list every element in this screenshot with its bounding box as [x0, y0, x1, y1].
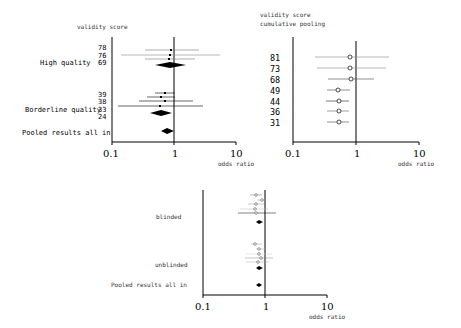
tick-10: 10: [413, 148, 426, 159]
tick-1: 1: [172, 148, 178, 159]
study-points: [159, 49, 172, 107]
score-49: 49: [270, 86, 280, 96]
group-high-quality: High quality: [40, 59, 91, 67]
score-81: 81: [270, 53, 280, 63]
score-24: 24: [98, 113, 106, 121]
score-31: 31: [270, 118, 280, 128]
tick-0.1: 0.1: [195, 301, 211, 312]
pooled-label: Pooled results all in: [111, 281, 187, 288]
group-borderline-quality: Borderline quality: [25, 106, 101, 114]
group-unblinded: unblinded: [155, 261, 188, 268]
cumulative-points: [336, 55, 353, 124]
tick-10: 10: [321, 301, 334, 312]
panel-validity-score: validity score 0.1 1 10 odds ratio 78 76…: [22, 23, 255, 167]
panel2-subtitle: cumulative pooling: [260, 20, 325, 28]
score-78: 78: [98, 44, 106, 52]
x-axis-label: odds ratio: [218, 160, 255, 167]
tick-10: 10: [230, 148, 243, 159]
score-73: 73: [270, 64, 280, 74]
tick-0.1: 0.1: [103, 148, 119, 159]
score-44: 44: [270, 97, 280, 107]
tick-1: 1: [263, 301, 269, 312]
tick-0.1: 0.1: [285, 148, 301, 159]
pooled-diamonds: [150, 62, 186, 134]
x-axis-label: odds ratio: [309, 313, 346, 320]
x-axis-label: odds ratio: [398, 160, 435, 167]
score-68: 68: [270, 75, 280, 85]
panel-blinding: 0.1 1 10 odds ratio blinded unblinded Po…: [111, 190, 346, 320]
panel-cumulative-pooling: validity score cumulative pooling 0.1 1 …: [260, 11, 435, 167]
panel2-title: validity score: [260, 11, 311, 19]
score-36: 36: [270, 107, 280, 117]
pooled-label: Pooled results all in: [22, 129, 111, 137]
panel1-title: validity score: [77, 23, 128, 31]
figure: validity score 0.1 1 10 odds ratio 78 76…: [0, 0, 461, 328]
cumulative-ci-lines: [315, 57, 389, 122]
tick-1: 1: [354, 148, 360, 159]
score-69: 69: [98, 59, 106, 67]
score-38: 38: [98, 98, 106, 106]
group-blinded: blinded: [156, 213, 182, 220]
